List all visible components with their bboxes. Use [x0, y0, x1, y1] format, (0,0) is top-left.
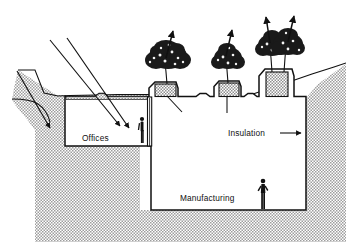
manufacturing-label: Manufacturing	[180, 193, 235, 203]
planter-1	[155, 84, 176, 97]
planter-2	[219, 83, 239, 97]
insulation-label: Insulation	[228, 128, 265, 138]
party-wall	[148, 97, 152, 146]
offices-label: Offices	[82, 133, 109, 143]
diagram-canvas: Offices Manufacturing Insulation	[0, 0, 346, 242]
planter-3	[266, 72, 288, 97]
tree-4	[271, 16, 305, 72]
roof-planters	[155, 72, 288, 97]
cross-section-figure: Offices Manufacturing Insulation	[0, 0, 346, 242]
